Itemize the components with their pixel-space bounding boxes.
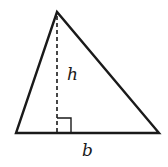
right-angle-marker bbox=[57, 118, 71, 133]
triangle-outline bbox=[16, 12, 159, 133]
triangle-diagram: h b bbox=[0, 0, 168, 167]
height-label: h bbox=[67, 64, 78, 84]
base-label: b bbox=[82, 140, 93, 160]
